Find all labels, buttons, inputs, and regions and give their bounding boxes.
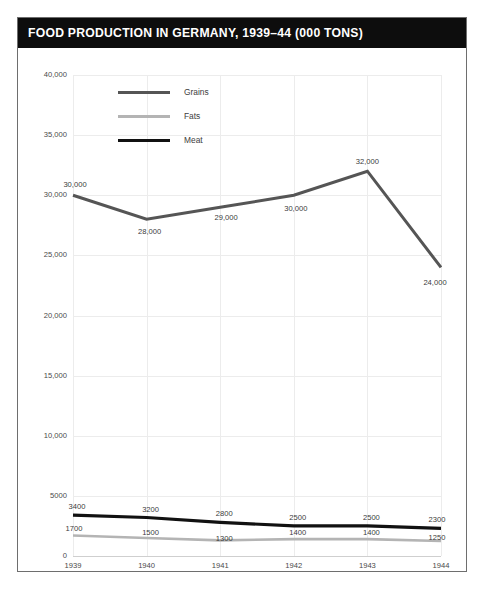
grains-data-label: 30,000 bbox=[266, 204, 326, 213]
legend-item-fats[interactable]: Fats bbox=[118, 104, 209, 128]
fats-data-label: 1500 bbox=[121, 528, 181, 537]
meat-data-label: 3400 bbox=[47, 502, 107, 511]
grains-data-label: 24,000 bbox=[405, 278, 465, 287]
legend-item-label: Fats bbox=[184, 111, 200, 121]
fats-data-label: 1250 bbox=[407, 533, 467, 542]
grains-data-label: 32,000 bbox=[337, 157, 397, 166]
legend-item-grains[interactable]: Grains bbox=[118, 80, 209, 104]
legend-swatch-icon bbox=[118, 139, 170, 142]
meat-data-label: 2800 bbox=[194, 509, 254, 518]
legend-swatch-icon bbox=[118, 91, 170, 94]
fats-data-label: 1400 bbox=[268, 528, 328, 537]
chart-legend: GrainsFatsMeat bbox=[118, 80, 209, 152]
fats-data-label: 1700 bbox=[44, 524, 104, 533]
fats-data-label: 1300 bbox=[194, 534, 254, 543]
grains-data-label: 29,000 bbox=[196, 213, 256, 222]
grains-data-label: 28,000 bbox=[120, 227, 180, 236]
series-lines bbox=[18, 48, 466, 573]
meat-data-label: 2500 bbox=[341, 513, 401, 522]
legend-swatch-icon bbox=[118, 115, 170, 118]
legend-item-meat[interactable]: Meat bbox=[118, 128, 209, 152]
grains-data-label: 30,000 bbox=[45, 180, 105, 189]
legend-item-label: Meat bbox=[184, 135, 203, 145]
page-title: FOOD PRODUCTION IN GERMANY, 1939–44 (000… bbox=[28, 26, 363, 40]
plot-area: 0500010,00015,00020,00025,00030,00035,00… bbox=[18, 48, 466, 571]
meat-data-label: 3200 bbox=[121, 505, 181, 514]
meat-data-label: 2300 bbox=[407, 515, 467, 524]
chart-card: FOOD PRODUCTION IN GERMANY, 1939–44 (000… bbox=[17, 17, 467, 572]
fats-data-label: 1400 bbox=[341, 528, 401, 537]
chart-title-bar: FOOD PRODUCTION IN GERMANY, 1939–44 (000… bbox=[18, 18, 466, 48]
series-line-grains bbox=[73, 171, 441, 267]
meat-data-label: 2500 bbox=[268, 513, 328, 522]
legend-item-label: Grains bbox=[184, 87, 209, 97]
